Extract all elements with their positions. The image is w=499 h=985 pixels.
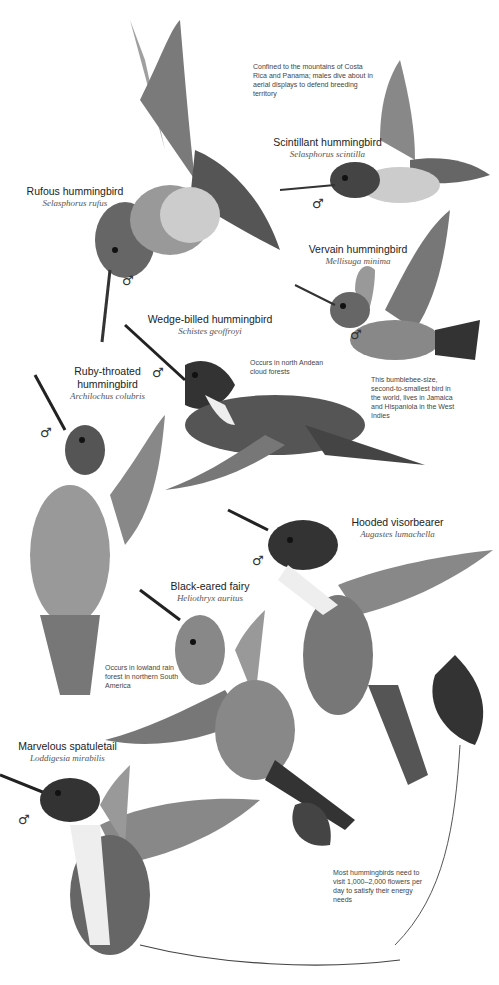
common-name-line1: Ruby-throated <box>60 365 155 378</box>
species-label-hooded-visorbearer: Hooded visorbearer Augastes lumachella <box>340 516 455 540</box>
note-scintillant: Confined to the mountains of Costa Rica … <box>253 62 373 98</box>
note-vervain: This bumblebee-size, second-to-smallest … <box>371 375 456 420</box>
common-name: Hooded visorbearer <box>340 516 455 529</box>
common-name: Black-eared fairy <box>155 580 265 593</box>
species-label-black-eared-fairy: Black-eared fairy Heliothryx auritus <box>155 580 265 604</box>
species-label-ruby-throated: Ruby-throated hummingbird Archilochus co… <box>60 365 155 403</box>
male-symbol: ♂ <box>18 812 30 827</box>
scientific-name: Selasphorus rufus <box>10 198 140 209</box>
male-symbol: ♂ <box>252 553 264 568</box>
species-label-vervain: Vervain hummingbird Mellisuga minima <box>298 243 418 267</box>
common-name: Scintillant hummingbird <box>250 136 405 149</box>
scientific-name: Archilochus colubris <box>60 391 155 402</box>
scientific-name: Selasphorus scintilla <box>250 149 405 160</box>
note-general: Most hummingbirds need to visit 1,000–2,… <box>333 868 428 904</box>
common-name: Wedge-billed hummingbird <box>140 313 280 326</box>
scientific-name: Mellisuga minima <box>298 256 418 267</box>
note-black-eared-fairy: Occurs in lowland rain forest in norther… <box>105 663 180 690</box>
species-label-wedge-billed: Wedge-billed hummingbird Schistes geoffr… <box>140 313 280 337</box>
male-symbol: ♂ <box>312 196 324 211</box>
species-label-marvelous-spatuletail: Marvelous spatuletail Loddigesia mirabil… <box>5 740 130 764</box>
species-label-rufous: Rufous hummingbird Selasphorus rufus <box>10 185 140 209</box>
male-symbol: ♂ <box>40 425 52 440</box>
scientific-name: Schistes geoffroyi <box>140 326 280 337</box>
scientific-name: Loddigesia mirabilis <box>5 753 130 764</box>
scientific-name: Augastes lumachella <box>340 529 455 540</box>
common-name: Vervain hummingbird <box>298 243 418 256</box>
note-wedge-billed: Occurs in north Andean cloud forests <box>250 358 330 376</box>
species-label-scintillant: Scintillant hummingbird Selasphorus scin… <box>250 136 405 160</box>
scientific-name: Heliothryx auritus <box>155 593 265 604</box>
male-symbol: ♂ <box>122 273 134 288</box>
common-name: Rufous hummingbird <box>10 185 140 198</box>
common-name: Marvelous spatuletail <box>5 740 130 753</box>
common-name-line2: hummingbird <box>60 378 155 391</box>
